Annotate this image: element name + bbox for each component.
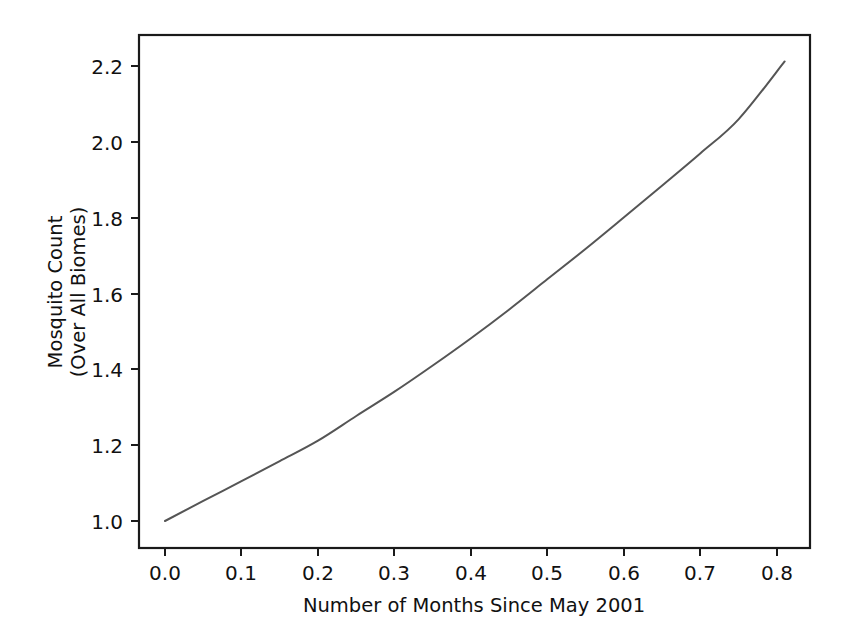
chart-figure: 0.0 0.1 0.2 0.3 0.4 0.5 0.6 0.7 0.8 1.0 …: [0, 0, 856, 639]
x-tick-label: 0.2: [302, 561, 334, 585]
y-tick-label: 2.2: [91, 55, 123, 79]
y-tick-label: 1.2: [91, 434, 123, 458]
x-tick-label: 0.4: [455, 561, 487, 585]
x-tick-label: 0.3: [378, 561, 410, 585]
x-tick-label: 0.5: [531, 561, 563, 585]
x-tick-label: 0.7: [684, 561, 716, 585]
x-tick-label: 0.6: [608, 561, 640, 585]
x-tick-label: 0.0: [149, 561, 181, 585]
y-axis-title-line1: Mosquito Count: [44, 215, 67, 368]
chart-background: [0, 0, 856, 639]
line-chart: 0.0 0.1 0.2 0.3 0.4 0.5 0.6 0.7 0.8 1.0 …: [0, 0, 856, 639]
x-axis-title: Number of Months Since May 2001: [303, 594, 645, 617]
y-tick-label: 1.8: [91, 207, 123, 231]
y-tick-label: 2.0: [91, 131, 123, 155]
y-tick-label: 1.0: [91, 510, 123, 534]
x-tick-label: 0.1: [225, 561, 257, 585]
y-tick-label: 1.6: [91, 283, 123, 307]
x-tick-label: 0.8: [761, 561, 793, 585]
x-tick-labels: 0.0 0.1 0.2 0.3 0.4 0.5 0.6 0.7 0.8: [149, 561, 793, 585]
y-axis-title-line2: (Over All Biomes): [67, 207, 90, 378]
y-tick-label: 1.4: [91, 358, 123, 382]
